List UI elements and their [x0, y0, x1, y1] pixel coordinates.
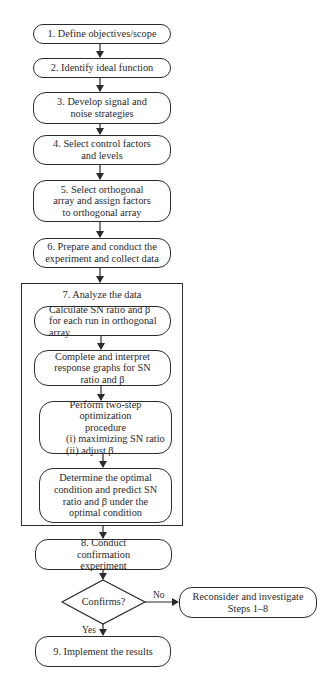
- step-5-box: 5. Select orthogonal array and assign fa…: [33, 180, 171, 222]
- substep-optimization-line3: (i) maximizing SN ratio: [46, 433, 165, 445]
- decision-no-label: No: [153, 590, 165, 600]
- step-1-label: 1. Define objectives/scope: [48, 28, 157, 40]
- step-9-box: 9. Implement the results: [35, 636, 171, 667]
- step-9-label: 9. Implement the results: [53, 646, 153, 658]
- fallback-line2: Steps 1–8: [228, 603, 268, 615]
- fallback-reconsider-box: Reconsider and investigate Steps 1–8: [179, 587, 317, 618]
- substep-determine-optimal-box: Determine the optimal condition and pred…: [39, 468, 172, 523]
- substep-response-graphs-label: Complete and interpret response graphs f…: [41, 351, 164, 386]
- step-2-box: 2. Identify ideal function: [33, 58, 171, 78]
- substep-optimization-line2: procedure: [85, 422, 126, 434]
- substep-calculate-box: Calculate SN ratio and β for each run in…: [34, 306, 171, 336]
- step-4-label: 4. Select control factors and levels: [40, 138, 164, 161]
- step-2-label: 2. Identify ideal function: [51, 62, 153, 74]
- step-5-label: 5. Select orthogonal array and assign fa…: [40, 184, 164, 219]
- analyze-data-title: 7. Analyze the data: [21, 289, 183, 300]
- decision-yes-label: Yes: [82, 625, 96, 635]
- fallback-line1: Reconsider and investigate: [193, 591, 304, 603]
- step-4-box: 4. Select control factors and levels: [33, 135, 171, 165]
- step-6-box: 6. Prepare and conduct the experiment an…: [33, 238, 171, 268]
- substep-optimization-line1: Perform two-step optimization: [46, 399, 165, 422]
- step-8-label: 8. Conduct confirmation experiment: [42, 537, 165, 572]
- step-3-label: 3. Develop signal and noise strategies: [40, 96, 164, 119]
- step-3-box: 3. Develop signal and noise strategies: [33, 92, 171, 124]
- substep-calculate-label: Calculate SN ratio and β for each run in…: [49, 304, 164, 339]
- substep-optimization-line4: (ii) adjust β: [46, 445, 114, 457]
- substep-response-graphs-box: Complete and interpret response graphs f…: [34, 350, 171, 386]
- step-6-label: 6. Prepare and conduct the experiment an…: [40, 241, 164, 264]
- step-8-box: 8. Conduct confirmation experiment: [35, 539, 172, 570]
- substep-optimization-box: Perform two-step optimization procedure …: [39, 401, 172, 454]
- decision-label: Confirms?: [62, 596, 145, 607]
- substep-determine-optimal-label: Determine the optimal condition and pred…: [46, 472, 165, 518]
- step-1-box: 1. Define objectives/scope: [33, 24, 171, 44]
